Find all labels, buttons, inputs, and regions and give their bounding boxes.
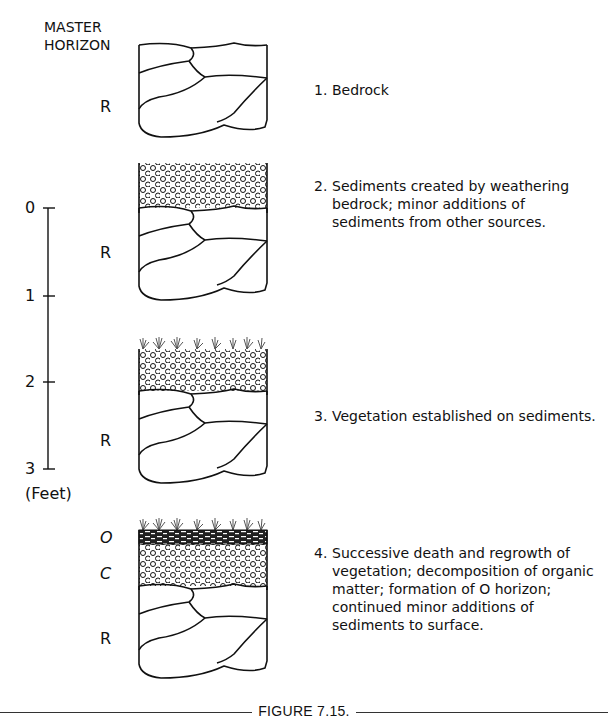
stage-2-number: 2. [314, 177, 332, 195]
stage-1-horizon-r: R [100, 97, 111, 116]
stage-4-profile [139, 518, 267, 678]
figure-caption: FIGURE 7.15. [0, 703, 608, 719]
stage-4-number: 4. [314, 544, 332, 562]
stage-4-line-4: continued minor additions of [314, 598, 608, 616]
stage-4-horizon-c: C [100, 564, 111, 583]
scale-tick-3: 3 [25, 459, 35, 478]
depth-scale [43, 208, 55, 469]
stage-4-horizon-r: R [100, 629, 111, 648]
stage-4-line-2: vegetation; decomposition of organic [314, 562, 608, 580]
stage-4-horizon-o: O [100, 528, 113, 547]
stage-1-description: 1.Bedrock [314, 81, 608, 99]
stage-1-line-1: Bedrock [332, 82, 389, 98]
stage-4-description: 4.Successive death and regrowth of veget… [314, 544, 608, 634]
stage-2-line-2: bedrock; minor additions of [314, 195, 608, 213]
stage-2-description: 2.Sediments created by weathering bedroc… [314, 177, 608, 231]
stage-2-profile [139, 163, 267, 300]
stage-2-line-3: sediments from other sources. [314, 213, 608, 231]
scale-tick-0: 0 [25, 198, 35, 217]
stage-3-line-1: Vegetation established on sediments. [332, 408, 596, 424]
stage-1-number: 1. [314, 81, 332, 99]
figure-caption-text: FIGURE 7.15. [252, 703, 356, 719]
stage-2-line-1: Sediments created by weathering [332, 178, 569, 194]
stage-4-line-3: matter; formation of O horizon; [314, 580, 608, 598]
scale-tick-1: 1 [25, 286, 35, 305]
stage-3-horizon-r: R [100, 431, 111, 450]
stage-3-profile [139, 337, 267, 483]
stage-4-line-5: sediments to surface. [314, 616, 608, 634]
scale-tick-2: 2 [25, 372, 35, 391]
scale-unit: (Feet) [25, 484, 72, 503]
stage-4-line-1: Successive death and regrowth of [332, 545, 570, 561]
stage-3-description: 3.Vegetation established on sediments. [314, 407, 608, 425]
stage-1-profile [139, 43, 267, 137]
stage-3-number: 3. [314, 407, 332, 425]
stage-2-horizon-r: R [100, 243, 111, 262]
